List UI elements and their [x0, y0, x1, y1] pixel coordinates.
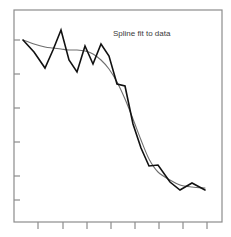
chart-title: Spline fit to data [113, 29, 171, 38]
chart-figure: Spline fit to data [0, 0, 231, 237]
spline-fit-chart: Spline fit to data [0, 0, 231, 237]
